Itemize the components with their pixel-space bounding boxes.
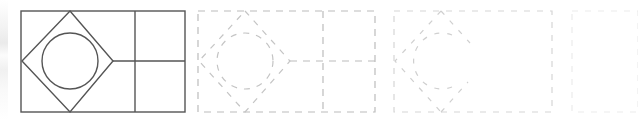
outer-rectangle bbox=[572, 11, 638, 112]
panel-empty-frame bbox=[0, 0, 638, 120]
panel-4-group bbox=[572, 11, 638, 112]
figure-canvas bbox=[0, 0, 638, 120]
